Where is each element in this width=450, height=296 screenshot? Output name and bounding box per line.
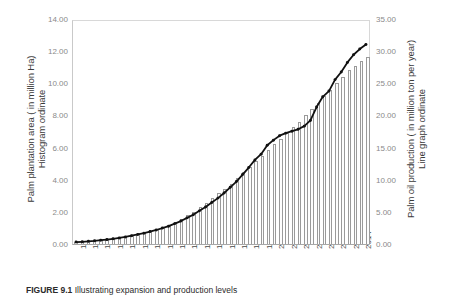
- y-axis-left-title-line2: Histogram ordinate: [36, 29, 47, 229]
- line-marker: [266, 144, 269, 147]
- line-marker: [290, 130, 293, 133]
- line-path: [76, 45, 366, 243]
- y-axis-right-title: Palm oil production ( in million ton per…: [405, 29, 427, 229]
- figure-caption: FIGURE 9.1 Illustrating expansion and pr…: [26, 285, 446, 296]
- line-marker: [130, 234, 133, 237]
- y-axis-left-tick-label: 12.00: [38, 47, 68, 57]
- y-axis-right-tick-label: 15.00: [376, 144, 406, 154]
- line-marker: [223, 192, 226, 195]
- line-marker: [118, 236, 121, 239]
- y-axis-left-tick-label: 6.00: [38, 144, 68, 154]
- line-marker: [334, 78, 337, 81]
- y-axis-right-tick-label: 0.00: [376, 240, 406, 250]
- line-marker: [340, 70, 343, 73]
- line-marker: [315, 106, 318, 109]
- y-axis-left-tick-label: 0.00: [38, 240, 68, 250]
- line-marker: [93, 239, 96, 242]
- line-marker: [87, 240, 90, 243]
- line-marker: [284, 132, 287, 135]
- line-marker: [346, 61, 349, 64]
- line-marker: [204, 206, 207, 209]
- plot-area: [72, 20, 370, 245]
- y-axis-right-tick-label: 25.00: [376, 79, 406, 89]
- line-series-svg: [73, 21, 369, 244]
- line-marker: [186, 216, 189, 219]
- line-marker: [309, 119, 312, 122]
- line-marker: [241, 173, 244, 176]
- y-axis-left-tick-label: 14.00: [38, 15, 68, 25]
- y-axis-left-title: Palm plantation area ( in million Ha) Hi…: [25, 29, 47, 229]
- figure-caption-text: Illustrating expansion and production le…: [75, 285, 238, 295]
- line-marker: [235, 180, 238, 183]
- y-axis-right-tick-label: 35.00: [376, 15, 406, 25]
- line-marker: [253, 158, 256, 161]
- y-axis-left-tick-label: 4.00: [38, 176, 68, 186]
- line-marker: [297, 128, 300, 131]
- y-axis-left-tick-label: 10.00: [38, 79, 68, 89]
- line-marker: [99, 239, 102, 242]
- line-marker: [161, 227, 164, 230]
- figure-container: Palm plantation area ( in million Ha) Hi…: [0, 0, 450, 296]
- y-axis-right-tick-label: 10.00: [376, 176, 406, 186]
- y-axis-right-title-line2: Line graph ordinate: [416, 29, 427, 229]
- line-marker: [105, 238, 108, 241]
- line-marker: [149, 230, 152, 233]
- figure-caption-label: FIGURE 9.1: [26, 285, 72, 295]
- line-marker: [327, 90, 330, 93]
- line-marker: [112, 237, 115, 240]
- y-axis-right-tick-label: 30.00: [376, 47, 406, 57]
- line-marker: [142, 232, 145, 235]
- line-marker: [210, 201, 213, 204]
- y-axis-right-tick-label: 20.00: [376, 111, 406, 121]
- line-marker: [136, 233, 139, 236]
- line-marker: [364, 43, 367, 46]
- line-marker: [179, 220, 182, 223]
- y-axis-right-title-line1: Palm oil production ( in million ton per…: [405, 40, 416, 218]
- line-marker: [192, 213, 195, 216]
- line-marker: [260, 153, 263, 156]
- line-marker: [303, 125, 306, 128]
- line-marker: [173, 222, 176, 225]
- line-marker: [352, 53, 355, 56]
- line-markers: [75, 43, 368, 243]
- line-marker: [167, 225, 170, 228]
- line-marker: [321, 95, 324, 98]
- y-axis-left-tick-label: 8.00: [38, 111, 68, 121]
- line-series-oil-production: [73, 21, 369, 244]
- line-marker: [278, 134, 281, 137]
- line-marker: [229, 186, 232, 189]
- line-marker: [358, 48, 361, 51]
- line-marker: [155, 228, 158, 231]
- line-marker: [81, 240, 84, 243]
- line-marker: [198, 209, 201, 212]
- line-marker: [247, 166, 250, 169]
- line-marker: [272, 139, 275, 142]
- line-marker: [216, 197, 219, 200]
- y-axis-right-tick-label: 5.00: [376, 208, 406, 218]
- line-marker: [75, 241, 78, 244]
- y-axis-left-title-line1: Palm plantation area ( in million Ha): [25, 56, 36, 203]
- line-marker: [124, 236, 127, 239]
- y-axis-left-tick-label: 2.00: [38, 208, 68, 218]
